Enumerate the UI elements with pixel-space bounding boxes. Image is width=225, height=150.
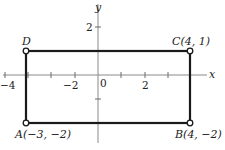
vertex-c-label: C(4, 1) <box>172 35 210 48</box>
x-tick-label-neg4: −4 <box>0 79 16 91</box>
rectangle-abcd <box>26 51 190 123</box>
vertex-b-point <box>187 120 193 126</box>
vertex-b-label: B(4, −2) <box>174 128 222 141</box>
vertex-a-label: A(−3, −2) <box>14 128 71 141</box>
x-tick-label-2: 2 <box>142 79 149 91</box>
x-tick-label-neg2: −2 <box>63 79 78 91</box>
vertex-c-point <box>187 48 193 54</box>
origin-label: 0 <box>100 77 107 89</box>
x-axis-label: x <box>209 68 216 81</box>
vertex-a-point <box>23 120 29 126</box>
y-tick-label-2: 2 <box>86 21 93 33</box>
y-axis-label: y <box>94 1 102 14</box>
vertex-d-point <box>23 48 29 54</box>
coordinate-plane: −4 −2 2 2 0 x y A(−3, −2) B(4, −2) C(4, … <box>0 0 225 150</box>
vertex-d-label: D <box>21 35 31 48</box>
coordinate-plane-figure: −4 −2 2 2 0 x y A(−3, −2) B(4, −2) C(4, … <box>0 0 225 150</box>
